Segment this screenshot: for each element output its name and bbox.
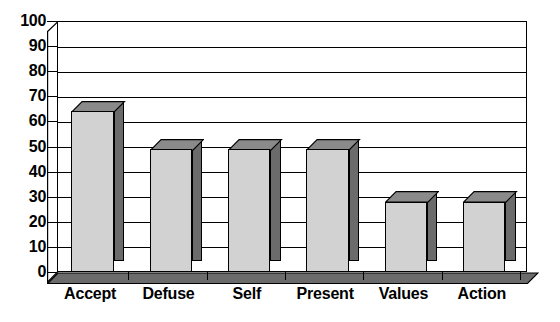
y-tick-label: 40 [0,164,46,180]
y-tick-mark [47,197,57,198]
x-tick-mark [520,272,521,280]
x-tick-mark [207,272,208,280]
y-tick-label: 20 [0,214,46,230]
y-tick-label: 10 [0,239,46,255]
gridline [58,247,526,248]
y-tick-label: 50 [0,139,46,155]
bar-front-face [306,149,348,272]
gridline [58,122,526,123]
y-tick-mark [47,247,57,248]
y-tick-mark [47,46,57,47]
x-tick-label: Present [286,284,364,304]
y-tick-label: 90 [0,38,46,54]
y-tick-label: 70 [0,88,46,104]
bar-values[interactable] [385,191,427,272]
y-tick-label: 0 [0,264,46,280]
gridline [58,97,526,98]
y-tick-mark [47,272,57,273]
y-axis: 1009080706050403020100 [0,0,46,322]
y-tick-mark [47,222,57,223]
gridline [58,147,526,148]
x-tick-mark [128,272,129,280]
bar-accept[interactable] [71,101,113,272]
bar-front-face [71,111,113,272]
bar-side-face [114,101,125,262]
bar-side-face [349,139,360,262]
bar-chart: 1009080706050403020100 AcceptDefuseSelfP… [0,0,560,322]
gridline [58,47,526,48]
y-tick-label: 30 [0,189,46,205]
plot-area [57,21,527,272]
bar-front-face [228,149,270,272]
y-tick-label: 80 [0,63,46,79]
gridline [58,172,526,173]
y-tick-mark [47,172,57,173]
gridline [58,72,526,73]
bar-side-face [192,139,203,262]
gridline [58,222,526,223]
bar-action[interactable] [463,191,505,272]
x-tick-mark [285,272,286,280]
y-tick-label: 100 [0,13,46,29]
bar-front-face [150,149,192,272]
y-tick-mark [47,147,57,148]
y-tick-label: 60 [0,113,46,129]
y-tick-mark [47,71,57,72]
bar-front-face [385,202,427,272]
bar-side-face [270,139,281,262]
bar-present[interactable] [306,139,348,272]
bar-front-face [463,202,505,272]
x-axis: AcceptDefuseSelfPresentValuesAction [0,284,560,312]
x-tick-label: Defuse [129,284,207,304]
y-tick-mark [47,96,57,97]
bar-self[interactable] [228,139,270,272]
x-tick-label: Self [208,284,286,304]
gridline [58,197,526,198]
x-tick-label: Action [443,284,521,304]
x-tick-mark [363,272,364,280]
x-tick-label: Values [364,284,442,304]
x-tick-label: Accept [51,284,129,304]
y-tick-mark [47,121,57,122]
y-tick-mark [47,21,57,22]
x-tick-mark [442,272,443,280]
bar-defuse[interactable] [150,139,192,272]
